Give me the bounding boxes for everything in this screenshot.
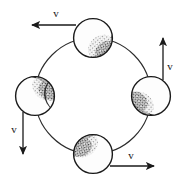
velocity-label-top: v (53, 7, 59, 19)
velocity-label-right: v (167, 60, 173, 72)
circular-motion-canvas: v v v v (0, 0, 186, 188)
velocity-label-left: v (11, 123, 17, 135)
circular-motion-figure: v v v v (0, 0, 186, 188)
velocity-label-bottom: v (128, 149, 134, 161)
